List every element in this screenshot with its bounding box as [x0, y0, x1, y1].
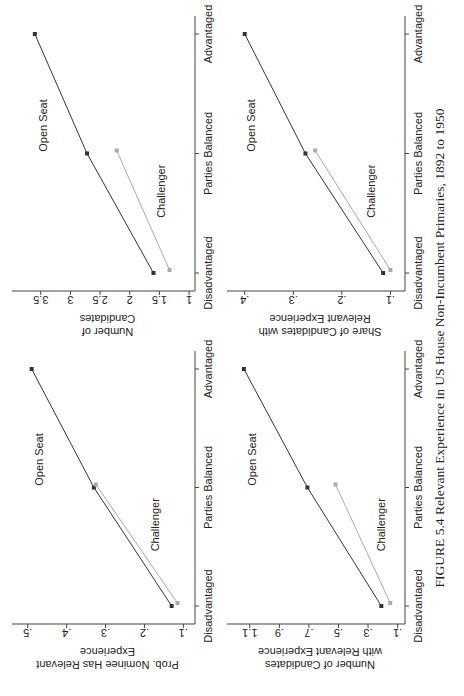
- series-line-challenger: [315, 151, 390, 271]
- y-tick-label: .3: [289, 294, 298, 306]
- data-point: [381, 271, 385, 275]
- x-tick-label: Disadvantaged: [202, 569, 214, 642]
- figure-page: .1.2.3.4.5DisadvantagedParties BalancedA…: [0, 0, 464, 696]
- y-tick-label: .1: [386, 294, 395, 306]
- y-tick-label: 1.1: [242, 627, 257, 639]
- y-tick-label: .3: [363, 627, 372, 639]
- y-tick-label: 2: [127, 294, 133, 306]
- y-tick-label: .2: [140, 627, 149, 639]
- y-tick-label: 1: [186, 294, 192, 306]
- data-point: [379, 604, 383, 608]
- data-point: [151, 271, 155, 275]
- y-tick-label: .5: [334, 627, 343, 639]
- y-tick-label: .9: [275, 627, 284, 639]
- data-point: [176, 601, 180, 605]
- data-point: [85, 152, 89, 156]
- series-line-challenger: [96, 485, 178, 604]
- data-point: [388, 601, 392, 605]
- data-point: [313, 149, 317, 153]
- series-label-challenger: Challenger: [375, 498, 387, 552]
- data-point: [94, 483, 98, 487]
- x-tick-label: Disadvantaged: [412, 236, 424, 309]
- y-tick-label: 3: [67, 294, 73, 306]
- y-tick-label: .5: [23, 627, 32, 639]
- x-tick-label: Advantaged: [412, 5, 424, 64]
- series-label-open-seat: Open Seat: [245, 99, 257, 152]
- data-point: [33, 32, 37, 36]
- chart-panel-bottom-right: .1.2.3.4DisadvantagedParties BalancedAdv…: [227, 5, 424, 338]
- y-tick-label: .1: [179, 627, 188, 639]
- y-tick-label: 2.5: [92, 294, 107, 306]
- y-tick-label: 3.5: [33, 294, 48, 306]
- x-tick-label: Parties Balanced: [412, 446, 424, 529]
- data-point: [334, 483, 338, 487]
- data-point: [388, 268, 392, 272]
- y-tick-label: .1: [393, 627, 402, 639]
- figure-caption: FIGURE 5.4 Relevant Experience in US Hou…: [432, 0, 448, 696]
- series-line-open-seat: [244, 369, 381, 606]
- y-axis-title: Prob. Nominee Has RelevantExperience: [36, 646, 178, 671]
- x-tick-label: Disadvantaged: [412, 569, 424, 642]
- data-point: [242, 367, 246, 371]
- data-point: [243, 32, 247, 36]
- data-point: [167, 268, 171, 272]
- x-tick-label: Advantaged: [412, 340, 424, 399]
- series-label-challenger: Challenger: [149, 498, 161, 552]
- x-tick-label: Advantaged: [202, 340, 214, 399]
- series-label-open-seat: Open Seat: [246, 433, 258, 486]
- data-point: [115, 149, 119, 153]
- y-axis-title: Share of Candidates withRelevant Experie…: [259, 313, 382, 338]
- y-tick-label: .4: [62, 627, 71, 639]
- figure-panels: .1.2.3.4.5DisadvantagedParties BalancedA…: [0, 0, 464, 696]
- series-label-challenger: Challenger: [155, 164, 167, 218]
- data-point: [170, 604, 174, 608]
- y-tick-label: .7: [304, 627, 313, 639]
- y-axis-title: Number ofCandidates: [79, 313, 135, 338]
- data-point: [30, 367, 34, 371]
- x-tick-label: Parties Balanced: [202, 112, 214, 195]
- y-tick-label: 1.5: [152, 294, 167, 306]
- series-label-challenger: Challenger: [365, 164, 377, 218]
- x-tick-label: Advantaged: [202, 5, 214, 64]
- data-point: [305, 486, 309, 490]
- x-tick-label: Parties Balanced: [412, 112, 424, 195]
- chart-panel-top-right: 11.522.533.5DisadvantagedParties Balance…: [12, 5, 214, 338]
- series-line-open-seat: [245, 34, 383, 273]
- series-label-open-seat: Open Seat: [37, 99, 49, 152]
- x-tick-label: Disadvantaged: [202, 236, 214, 309]
- y-axis-title: Number of Candidateswith Relevant Experi…: [258, 646, 383, 671]
- series-label-open-seat: Open Seat: [33, 433, 45, 486]
- y-tick-label: .2: [337, 294, 346, 306]
- x-tick-label: Parties Balanced: [202, 446, 214, 529]
- series-line-open-seat: [35, 34, 154, 273]
- data-point: [303, 152, 307, 156]
- y-tick-label: .4: [240, 294, 249, 306]
- chart-panel-bottom-left: .1.3.5.7.91.1DisadvantagedParties Balanc…: [227, 340, 424, 671]
- chart-panel-top-left: .1.2.3.4.5DisadvantagedParties BalancedA…: [12, 340, 214, 671]
- series-line-open-seat: [32, 369, 172, 606]
- y-tick-label: .3: [101, 627, 110, 639]
